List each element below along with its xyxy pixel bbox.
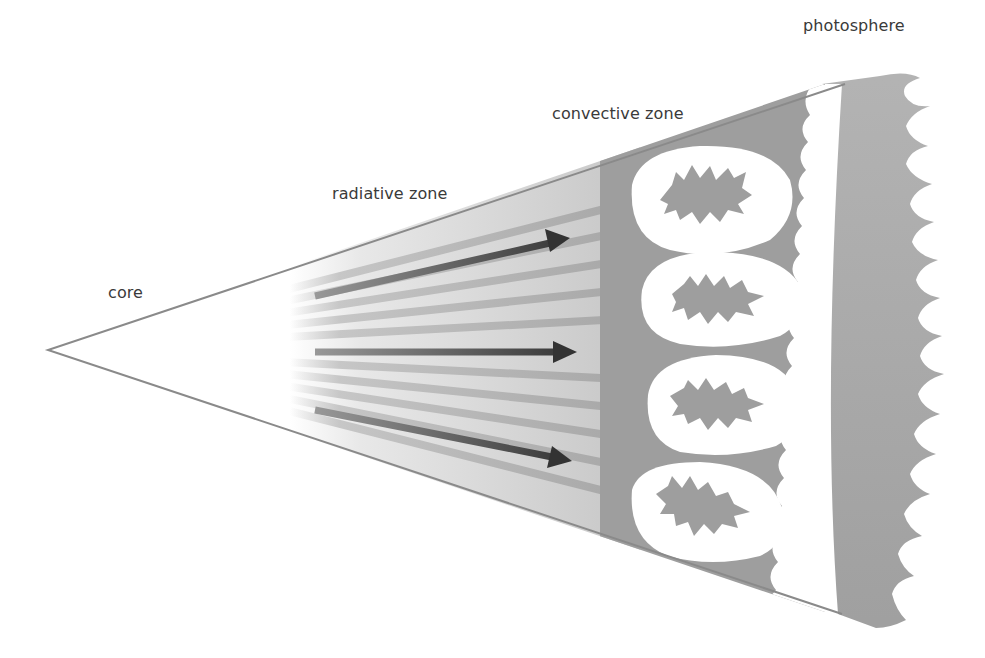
sun-structure-diagram xyxy=(0,0,985,658)
label-photosphere: photosphere xyxy=(803,16,905,35)
convection-cell-2 xyxy=(641,252,803,347)
convection-cell-1 xyxy=(632,146,793,254)
label-convective-zone: convective zone xyxy=(552,104,684,123)
photosphere xyxy=(822,73,944,628)
label-core: core xyxy=(108,283,143,302)
label-radiative-zone: radiative zone xyxy=(332,184,447,203)
convection-cell-3 xyxy=(648,355,799,455)
